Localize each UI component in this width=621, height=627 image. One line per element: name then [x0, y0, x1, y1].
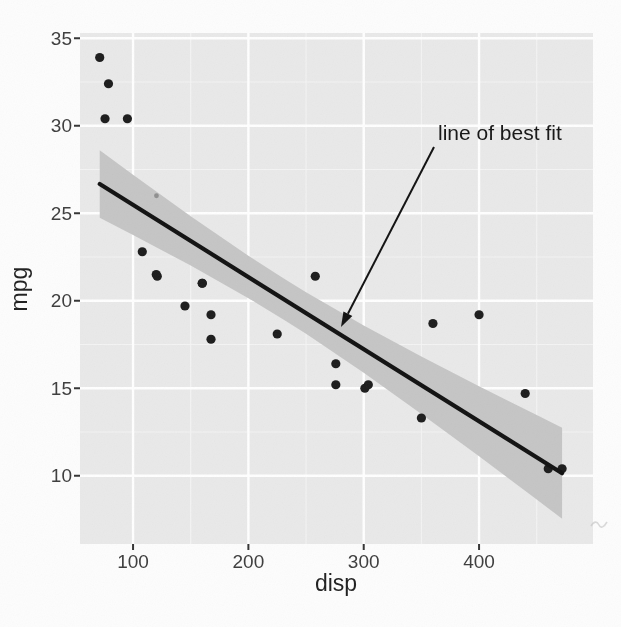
x-axis-title: disp — [315, 570, 357, 596]
x-tick-label: 100 — [117, 551, 149, 572]
data-point — [153, 272, 162, 281]
scan-artifact — [591, 522, 607, 527]
data-point — [100, 114, 109, 123]
data-point — [273, 329, 282, 338]
data-point — [95, 53, 104, 62]
data-point — [474, 310, 483, 319]
data-point — [428, 319, 437, 328]
annotation-text: line of best fit — [438, 121, 562, 144]
scatter-plot: 100200300400101520253035 mpg disp line o… — [0, 0, 621, 627]
faint-data-point — [154, 193, 159, 198]
y-axis-title: mpg — [6, 267, 32, 312]
data-point — [206, 310, 215, 319]
y-tick-label: 10 — [51, 465, 72, 486]
data-point — [123, 114, 132, 123]
y-tick-label: 20 — [51, 290, 72, 311]
data-point — [364, 380, 373, 389]
data-point — [104, 79, 113, 88]
data-point — [198, 279, 207, 288]
x-tick-label: 400 — [463, 551, 495, 572]
y-tick-label: 25 — [51, 203, 72, 224]
data-point — [417, 413, 426, 422]
scatter-plot-figure: 100200300400101520253035 mpg disp line o… — [0, 0, 621, 627]
data-point — [206, 335, 215, 344]
y-tick-label: 30 — [51, 115, 72, 136]
data-point — [138, 247, 147, 256]
plot-panel: 100200300400101520253035 — [51, 28, 593, 572]
y-tick-label: 35 — [51, 28, 72, 49]
x-tick-label: 200 — [233, 551, 265, 572]
data-point — [521, 389, 530, 398]
data-point — [180, 301, 189, 310]
data-point — [311, 272, 320, 281]
y-tick-label: 15 — [51, 378, 72, 399]
data-point — [331, 359, 340, 368]
data-point — [331, 380, 340, 389]
x-tick-label: 300 — [348, 551, 380, 572]
